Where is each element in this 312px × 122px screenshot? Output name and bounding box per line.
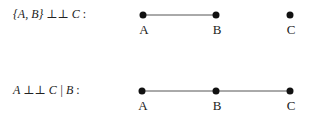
node-label-b: B [213, 98, 222, 114]
node-c [287, 12, 294, 19]
graph-1 [140, 12, 294, 19]
graph-2 [139, 88, 294, 95]
node-a [140, 12, 147, 19]
node-b [213, 12, 220, 19]
graphs [0, 0, 312, 122]
node-label-c: C [287, 22, 296, 38]
node-label-b: B [213, 22, 222, 38]
node-label-c: C [287, 98, 296, 114]
node-label-a: A [139, 22, 148, 38]
node-c [287, 88, 294, 95]
node-b [213, 88, 220, 95]
node-label-a: A [138, 98, 147, 114]
node-a [139, 88, 146, 95]
